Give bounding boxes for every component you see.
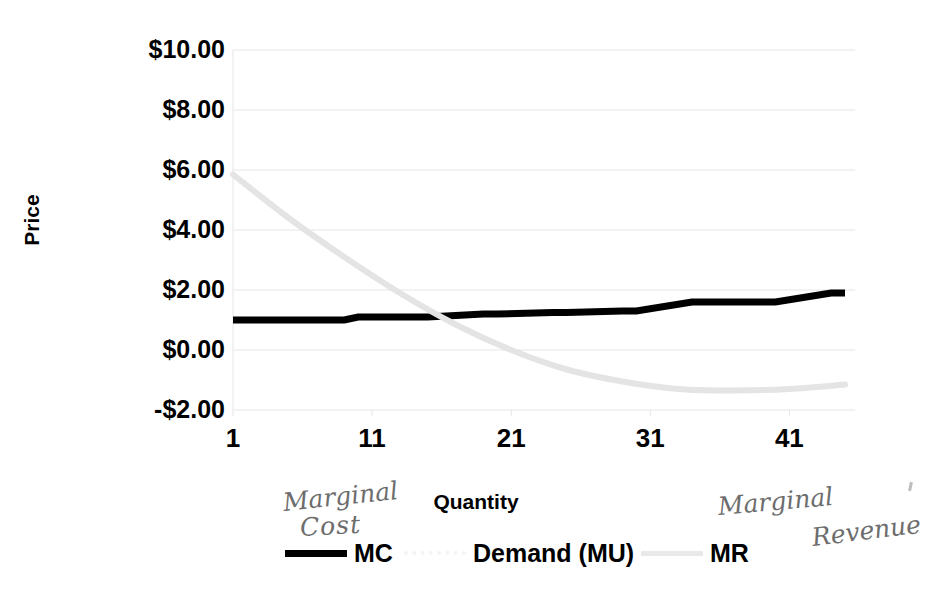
legend-label-demand: Demand (MU) (473, 541, 634, 566)
legend-item-mr: MR (641, 536, 749, 570)
series-layer (233, 175, 845, 391)
legend-line-swatch-mr (641, 551, 703, 556)
legend-line-swatch-mc (285, 550, 347, 557)
legend-line-swatch-demand (404, 551, 466, 555)
legend-item-mc: MC (285, 536, 393, 570)
series-line-mr (233, 175, 845, 391)
chart-container: Price $10.00 $8.00 $6.00 $4.00 $2.00 $0.… (0, 0, 952, 604)
chart-legend: MC Demand (MU) MR (0, 536, 952, 576)
x-tick-label: 41 (754, 425, 824, 451)
x-tick-label: 31 (615, 425, 685, 451)
series-line-mc (233, 293, 845, 320)
legend-label-mr: MR (710, 541, 749, 566)
legend-item-demand: Demand (MU) (404, 536, 634, 570)
x-tick-label: 21 (476, 425, 546, 451)
legend-label-mc: MC (354, 541, 393, 566)
x-tick-label: 11 (337, 425, 407, 451)
x-tick-label: 1 (198, 425, 268, 451)
x-axis-tick-labels: 1 11 21 31 41 (0, 425, 952, 465)
x-axis-title: Quantity (0, 490, 952, 514)
